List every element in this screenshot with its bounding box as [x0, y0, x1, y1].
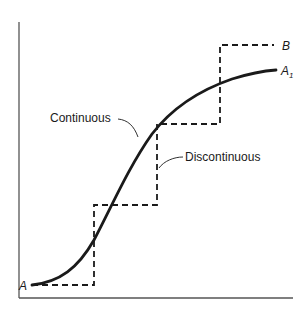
growth-diagram: A B A1 Continuous Discontinuous: [0, 0, 308, 316]
label-end-b: B: [282, 39, 290, 53]
label-end-a1: A1: [280, 64, 293, 80]
continuous-curve: [32, 70, 276, 285]
continuous-leader: [118, 119, 138, 137]
label-discontinuous: Discontinuous: [185, 150, 260, 164]
discontinuous-leader: [159, 157, 183, 168]
discontinuous-step-path: [32, 45, 274, 285]
label-start-a: A: [18, 279, 27, 293]
label-continuous: Continuous: [50, 111, 111, 125]
